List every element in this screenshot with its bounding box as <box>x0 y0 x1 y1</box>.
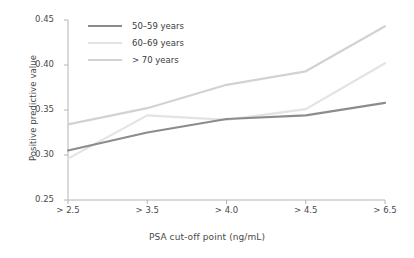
chart-figure: Positive predictive value PSA cut-off po… <box>0 0 414 258</box>
legend-item: > 70 years <box>88 51 184 68</box>
legend-item: 60–69 years <box>88 34 184 51</box>
chart-legend: 50–59 years60–69 years> 70 years <box>88 17 184 68</box>
legend-item: 50–59 years <box>88 17 184 34</box>
series-line <box>68 103 385 151</box>
legend-label: 60–69 years <box>132 38 184 48</box>
legend-color-swatch <box>88 59 122 61</box>
legend-color-swatch <box>88 42 122 44</box>
line-chart-plot <box>0 0 414 258</box>
legend-color-swatch <box>88 25 122 27</box>
legend-label: > 70 years <box>132 55 179 65</box>
legend-label: 50–59 years <box>132 21 184 31</box>
